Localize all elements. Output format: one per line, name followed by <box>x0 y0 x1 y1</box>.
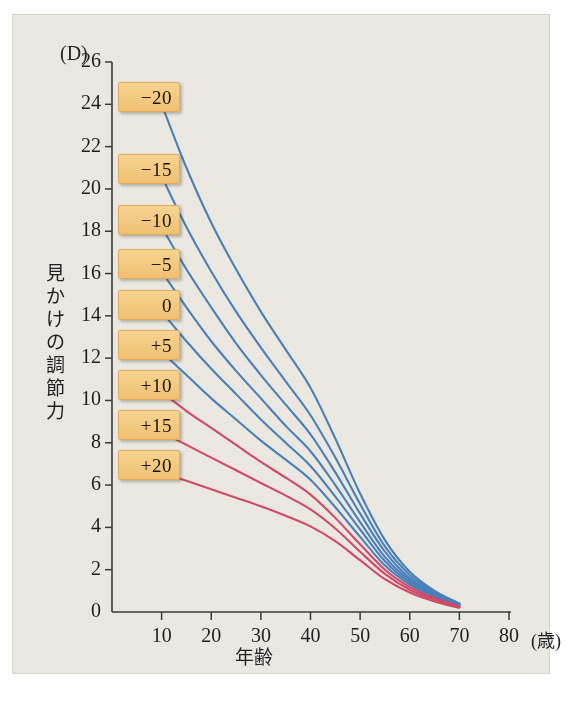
x-tick-label: 60 <box>388 624 432 647</box>
y-tick-label: 2 <box>61 557 101 580</box>
chart-figure: (D) 見 か け の 調 節 力 年齢 0246810121416182022… <box>12 14 550 674</box>
x-tick-label: 40 <box>289 624 333 647</box>
curve-label-chip: −5 <box>118 249 180 279</box>
curve-plus10 <box>162 392 460 607</box>
curve-label-chip: +5 <box>118 330 180 360</box>
x-tick-label: 50 <box>338 624 382 647</box>
y-tick-label: 12 <box>61 345 101 368</box>
curve-label-chip: −10 <box>118 205 180 235</box>
curve-label-chip: 0 <box>118 290 180 320</box>
y-tick-label: 26 <box>61 49 101 72</box>
curve-group <box>162 104 460 607</box>
y-tick-label: 14 <box>61 303 101 326</box>
curve-label-chip: +15 <box>118 410 180 440</box>
x-axis-unit-label: (歳) <box>531 626 561 652</box>
y-tick-label: 4 <box>61 514 101 537</box>
y-tick-label: 10 <box>61 387 101 410</box>
curve-minus15 <box>162 176 460 604</box>
y-tick-label: 16 <box>61 261 101 284</box>
x-tick-label: 70 <box>437 624 481 647</box>
curve-label-chip: +10 <box>118 370 180 400</box>
y-tick-label: 8 <box>61 430 101 453</box>
y-tick-label: 24 <box>61 91 101 114</box>
curve-0 <box>162 312 460 606</box>
y-tick-label: 0 <box>61 599 101 622</box>
curve-label-chip: +20 <box>118 450 180 480</box>
y-tick-label: 6 <box>61 472 101 495</box>
curve-minus5 <box>162 271 460 604</box>
y-tick-label: 18 <box>61 218 101 241</box>
x-tick-label: 20 <box>189 624 233 647</box>
curve-label-chip: −20 <box>118 82 180 112</box>
curve-minus20 <box>162 104 460 603</box>
curve-label-chip: −15 <box>118 154 180 184</box>
x-tick-label: 10 <box>140 624 184 647</box>
x-tick-label: 30 <box>239 624 283 647</box>
y-tick-label: 22 <box>61 134 101 157</box>
y-tick-label: 20 <box>61 176 101 199</box>
x-tick-label: 80 <box>487 624 531 647</box>
